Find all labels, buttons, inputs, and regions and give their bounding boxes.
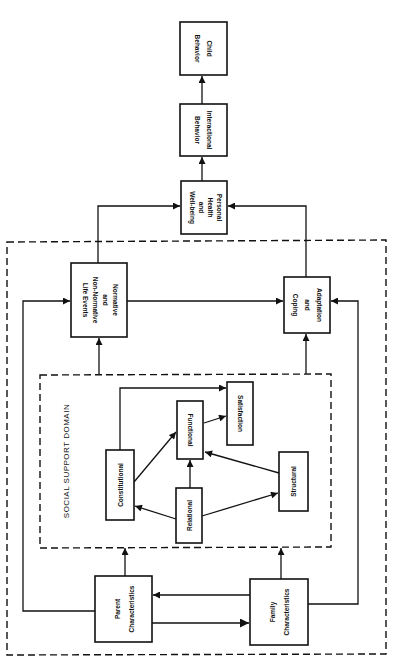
node-label: Family xyxy=(269,601,277,622)
node-label: Satisfaction xyxy=(237,395,244,432)
node-label: Parent xyxy=(114,598,121,619)
node-label: Behavior xyxy=(194,116,201,144)
node-label: Structural xyxy=(290,466,297,497)
diagram-canvas: Child Behavior Interactional Behavior Pe… xyxy=(0,0,395,666)
node-label: and xyxy=(304,299,311,311)
node-adaptation-coping: Adaptation and Coping xyxy=(284,277,330,333)
node-structural: Structural xyxy=(279,452,308,511)
edge-relational-to-constitutional xyxy=(135,506,176,519)
node-label: Behavior xyxy=(194,35,201,63)
node-label: Child xyxy=(206,40,213,56)
node-label: Characteristics xyxy=(283,588,290,635)
node-label: Relational xyxy=(186,500,193,531)
node-label: Non-Normative xyxy=(92,277,99,324)
node-label: Normative xyxy=(112,284,119,316)
node-family-characteristics: Family Characteristics xyxy=(250,579,308,645)
node-parent-characteristics: Parent Characteristics xyxy=(95,576,152,642)
node-label: Adaptation xyxy=(315,288,323,322)
node-label: Life Events xyxy=(82,283,89,318)
node-satisfaction: Satisfaction xyxy=(227,382,253,445)
edge-adaptation-to-personal xyxy=(228,206,306,277)
edge-parent-to-normative xyxy=(23,301,95,611)
node-relational: Relational xyxy=(176,488,202,543)
node-functional: Functional xyxy=(177,401,203,459)
edge-structural-to-functional xyxy=(205,452,279,473)
node-normative-life-events: Normative and Non-Normative Life Events xyxy=(71,263,127,337)
node-label: Constitutional xyxy=(117,463,124,507)
node-label: and xyxy=(102,294,109,306)
social-support-domain-label: SOCIAL SUPPORT DOMAIN xyxy=(62,404,71,518)
edge-family-to-adaptation xyxy=(308,301,358,604)
edge-functional-to-satisfaction xyxy=(204,416,226,423)
node-interactional-behavior: Interactional Behavior xyxy=(180,104,227,156)
node-constitutional: Constitutional xyxy=(106,450,134,520)
node-label: Functional xyxy=(187,414,194,447)
node-label: and xyxy=(198,202,205,214)
node-label: Health xyxy=(207,198,214,218)
node-child-behavior: Child Behavior xyxy=(180,22,227,75)
node-personal-health: Personal Health and Well-being xyxy=(181,181,227,234)
edge-constitutional-to-functional xyxy=(134,432,176,482)
node-label: Well-being xyxy=(188,191,196,224)
node-label: Coping xyxy=(291,294,299,316)
svg-text:SOCIAL SUPPORT DOMAIN: SOCIAL SUPPORT DOMAIN xyxy=(62,404,71,518)
edge-normative-to-personal xyxy=(98,206,180,263)
node-label: Personal xyxy=(216,194,223,222)
node-label: Characteristics xyxy=(128,585,135,632)
edge-constitutional-to-satisfaction xyxy=(120,388,226,450)
node-label: Interactional xyxy=(206,111,213,150)
edge-relational-to-structural xyxy=(202,493,278,516)
